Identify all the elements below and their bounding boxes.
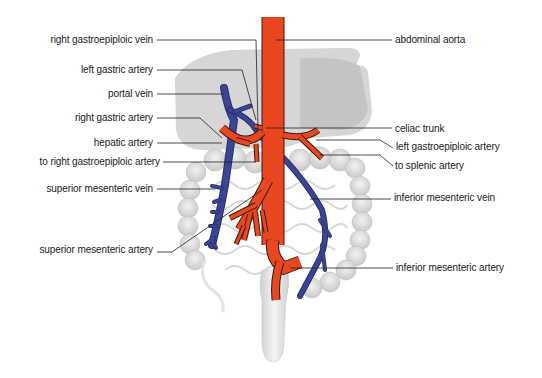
label-abdominal-aorta: abdominal aorta [395,34,465,46]
label-right-gastroepiploic-vein: right gastroepiploic vein [50,34,153,46]
label-left-gastroepiploic-artery: left gastroepiploic artery [396,141,500,153]
label-superior-mesenteric-artery: superior mesenteric artery [39,244,153,256]
label-to-right-gastroepiploic-artery: to right gastroepiploic artery [40,156,160,168]
label-left-gastric-artery: left gastric artery [81,64,153,76]
label-inferior-mesenteric-artery: inferior mesenteric artery [396,262,504,274]
label-celiac-trunk: celiac trunk [395,123,444,135]
label-inferior-mesenteric-vein: inferior mesenteric vein [394,192,495,204]
label-right-gastric-artery: right gastric artery [75,112,153,124]
label-hepatic-artery: hepatic artery [94,137,153,149]
anatomy-diagram: right gastroepiploic vein left gastric a… [0,0,542,378]
label-to-splenic-artery: to splenic artery [395,160,464,172]
label-superior-mesenteric-vein: superior mesenteric vein [46,183,153,195]
label-portal-vein: portal vein [108,88,153,100]
